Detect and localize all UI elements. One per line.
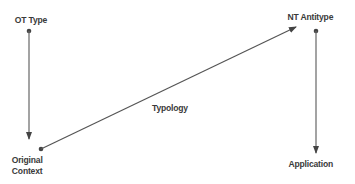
- edge-typology: [39, 27, 296, 151]
- original-context-line1: Original: [12, 154, 43, 165]
- edge-ot-to-original: [27, 29, 32, 139]
- node-application: Application: [288, 158, 333, 169]
- original-context-line2: Context: [12, 165, 43, 176]
- diagram-canvas: [0, 0, 355, 184]
- node-original-context: Original Context: [12, 154, 43, 176]
- node-nt-antitype: NT Antitype: [288, 11, 334, 22]
- edge-label-typology: Typology: [152, 102, 188, 113]
- edge-nt-to-application: [314, 29, 319, 153]
- node-ot-type: OT Type: [15, 14, 47, 25]
